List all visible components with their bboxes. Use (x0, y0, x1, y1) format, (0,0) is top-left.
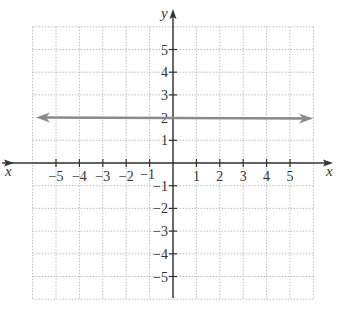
x-tick-label: 2 (216, 169, 223, 184)
x-tick-label: −3 (95, 169, 110, 184)
x-axis-label-left: x (4, 163, 12, 179)
coordinate-plane: −5−4−3−2−112345−5−4−3−2−112345 x x y (0, 0, 340, 316)
x-tick-label: 1 (193, 169, 200, 184)
y-tick-label: −2 (153, 201, 168, 216)
x-tick-label: −5 (49, 169, 64, 184)
y-tick-label: 4 (161, 65, 168, 80)
y-tick-label: −5 (153, 270, 168, 285)
x-tick-label: −4 (72, 169, 87, 184)
x-axis-label-right: x (325, 163, 333, 179)
x-tick-label: 4 (263, 169, 270, 184)
x-tick-label: 3 (240, 169, 247, 184)
y-tick-label: 3 (161, 88, 168, 103)
y-tick-label: 5 (161, 43, 168, 58)
y-tick-label: −4 (153, 247, 168, 262)
y-axis-label: y (159, 5, 168, 21)
series (36, 113, 313, 124)
y-tick-label: −1 (153, 179, 168, 194)
y-tick-label: 1 (161, 133, 168, 148)
x-tick-label: −2 (119, 169, 134, 184)
y-tick-label: −3 (153, 224, 168, 239)
line-y-equals-2 (42, 118, 307, 119)
x-tick-label: 5 (287, 169, 294, 184)
